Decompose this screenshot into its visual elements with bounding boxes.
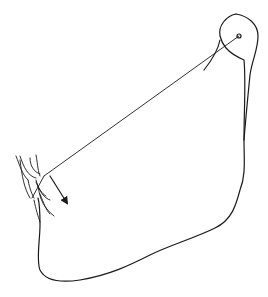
mandible-diagram: [0, 0, 268, 297]
tooth-line: [36, 182, 50, 200]
teeth-group: [16, 155, 54, 222]
diagram-canvas: [0, 0, 268, 297]
condyle-outline: [236, 14, 258, 140]
arrow-icon: [50, 176, 67, 203]
tooth-line: [32, 176, 44, 198]
force-line: [44, 36, 239, 176]
tooth-line: [16, 156, 28, 180]
tooth-line: [20, 160, 30, 198]
